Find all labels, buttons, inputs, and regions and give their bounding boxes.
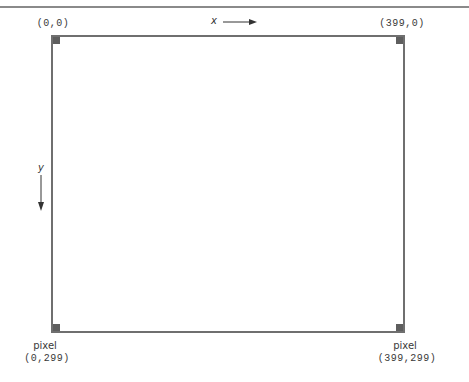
y-axis-arrow-icon xyxy=(36,175,46,211)
label-bottom-right: (399,299) xyxy=(372,353,442,364)
corner-marker-bottom-right xyxy=(396,324,403,331)
corner-marker-top-right xyxy=(396,37,403,44)
label-top-left: (0,0) xyxy=(28,18,78,29)
label-bottom-left-prefix: pixel xyxy=(25,340,65,351)
label-top-right: (399,0) xyxy=(370,18,434,29)
top-rule xyxy=(0,6,469,8)
label-bottom-left: (0,299) xyxy=(17,353,77,364)
label-bottom-right-prefix: pixel xyxy=(385,340,425,351)
corner-marker-top-left xyxy=(53,37,60,44)
pixel-grid-frame xyxy=(51,35,405,333)
x-axis-arrow-icon xyxy=(223,17,257,27)
x-axis-label: x xyxy=(211,15,217,26)
corner-marker-bottom-left xyxy=(53,324,60,331)
y-axis-label: y xyxy=(38,162,44,173)
